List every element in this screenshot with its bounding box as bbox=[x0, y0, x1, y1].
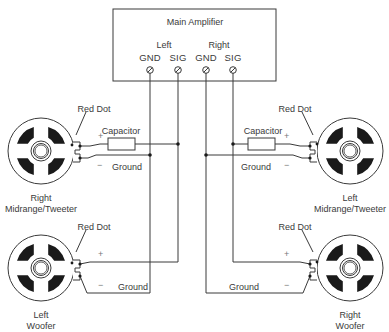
speaker-left-midrange-tweeter bbox=[308, 118, 383, 184]
capacitor-left-side bbox=[108, 138, 135, 150]
amplifier-title: Main Amplifier bbox=[167, 17, 224, 27]
wires bbox=[76, 73, 313, 293]
left-sig-label: SIG bbox=[170, 53, 187, 63]
ground-label: Ground bbox=[112, 162, 142, 172]
capacitor-label: Capacitor bbox=[244, 126, 283, 136]
ground-label: Ground bbox=[118, 282, 148, 292]
plus-sign: + bbox=[98, 249, 103, 259]
speaker-name-line2: Woofer bbox=[336, 321, 365, 331]
left-gnd-label: GND bbox=[139, 53, 161, 63]
wiring-diagram bbox=[0, 0, 389, 332]
red-dot-label: Red Dot bbox=[77, 222, 110, 232]
right-sig-label: SIG bbox=[225, 53, 242, 63]
speaker-name-line2: Midrange/Tweeter bbox=[314, 204, 386, 214]
speaker-name-line2: Midrange/Tweeter bbox=[5, 204, 77, 214]
capacitor-label: Capacitor bbox=[102, 126, 141, 136]
red-dot-marker bbox=[316, 261, 319, 264]
channel-left-label: Left bbox=[156, 40, 171, 50]
speaker-left-woofer bbox=[8, 235, 82, 301]
red-dot-label: Red Dot bbox=[278, 222, 311, 232]
right-gnd-label: GND bbox=[195, 53, 217, 63]
ground-label: Ground bbox=[241, 162, 271, 172]
plus-sign: + bbox=[284, 131, 289, 141]
speaker-right-woofer bbox=[308, 235, 383, 301]
channel-right-label: Right bbox=[208, 40, 229, 50]
speaker-name-line1: Right bbox=[30, 193, 51, 203]
speaker-right-midrange-tweeter bbox=[8, 118, 82, 184]
minus-sign: − bbox=[98, 280, 103, 290]
red-dot-marker bbox=[71, 144, 74, 147]
minus-sign: − bbox=[284, 280, 289, 290]
speaker-name-line1: Left bbox=[33, 310, 48, 320]
plus-sign: + bbox=[284, 249, 289, 259]
red-dot-marker bbox=[316, 143, 319, 146]
red-dot-marker bbox=[71, 262, 74, 265]
speaker-name-line1: Right bbox=[339, 310, 360, 320]
plus-sign: + bbox=[98, 131, 103, 141]
red-dot-label: Red Dot bbox=[77, 104, 110, 114]
speaker-name-line2: Woofer bbox=[27, 321, 56, 331]
red-dot-label: Red Dot bbox=[278, 104, 311, 114]
speaker-name-line1: Left bbox=[342, 193, 357, 203]
capacitor-right-side bbox=[248, 138, 275, 150]
minus-sign: − bbox=[284, 160, 289, 170]
minus-sign: − bbox=[97, 160, 102, 170]
ground-label: Ground bbox=[229, 282, 259, 292]
